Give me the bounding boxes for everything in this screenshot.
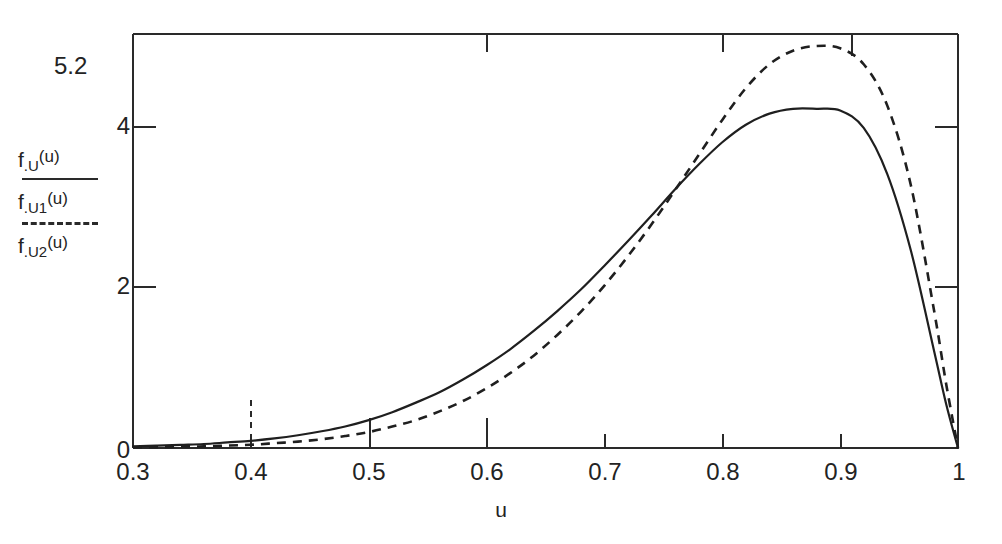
plot-frame (133, 34, 958, 448)
curve-f-u1-solid (133, 108, 958, 448)
y-axis-ticks (133, 127, 958, 287)
x-axis-ticks (251, 34, 852, 448)
curve-f-u2-dashed (133, 46, 958, 448)
plot-canvas (0, 0, 1002, 544)
density-plot-figure: 5.2 4 2 0 f.U(u) f.U1(u) f.U2(u) 0.3 0.4… (0, 0, 1002, 544)
